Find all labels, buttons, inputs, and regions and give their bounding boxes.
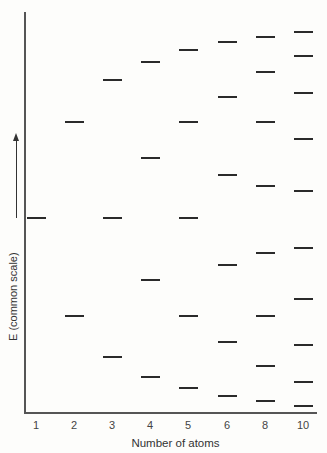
x-tick-label: 1 bbox=[26, 419, 46, 431]
energy-level-10-3 bbox=[294, 92, 313, 94]
energy-level-4-2 bbox=[141, 157, 160, 159]
energy-level-4-1 bbox=[141, 61, 160, 63]
energy-level-10-5 bbox=[294, 190, 313, 192]
y-axis-label: E (common scale) bbox=[7, 211, 19, 341]
energy-level-10-7 bbox=[294, 298, 313, 300]
energy-level-5-5 bbox=[179, 387, 198, 389]
energy-level-10-1 bbox=[294, 31, 313, 33]
energy-level-6-6 bbox=[218, 395, 237, 397]
energy-level-8-4 bbox=[256, 185, 275, 187]
energy-level-10-9 bbox=[294, 381, 313, 383]
energy-level-8-1 bbox=[256, 36, 275, 38]
energy-level-3-2 bbox=[103, 217, 122, 219]
energy-level-5-4 bbox=[179, 315, 198, 317]
energy-level-8-5 bbox=[256, 252, 275, 254]
energy-level-6-2 bbox=[218, 96, 237, 98]
energy-level-5-2 bbox=[179, 121, 198, 123]
x-tick-label: 5 bbox=[178, 419, 198, 431]
energy-level-8-7 bbox=[256, 365, 275, 367]
energy-level-10-4 bbox=[294, 138, 313, 140]
energy-level-2-1 bbox=[65, 121, 84, 123]
energy-level-3-1 bbox=[103, 79, 122, 81]
energy-level-6-3 bbox=[218, 174, 237, 176]
y-axis-line bbox=[24, 12, 26, 413]
x-tick-label: 4 bbox=[140, 419, 160, 431]
energy-level-6-5 bbox=[218, 341, 237, 343]
energy-level-4-4 bbox=[141, 376, 160, 378]
x-tick-label: 2 bbox=[64, 419, 84, 431]
energy-level-1-1 bbox=[27, 217, 46, 219]
energy-level-10-6 bbox=[294, 247, 313, 249]
energy-level-5-3 bbox=[179, 217, 198, 219]
energy-level-3-3 bbox=[103, 356, 122, 358]
energy-level-6-1 bbox=[218, 41, 237, 43]
x-axis-line bbox=[24, 412, 317, 414]
x-tick-label: 6 bbox=[217, 419, 237, 431]
energy-level-10-2 bbox=[294, 55, 313, 57]
energy-level-2-2 bbox=[65, 315, 84, 317]
y-arrow-shaft bbox=[16, 140, 17, 218]
x-axis-label: Number of atoms bbox=[0, 437, 327, 449]
x-tick-label: 8 bbox=[255, 419, 275, 431]
energy-level-10-8 bbox=[294, 344, 313, 346]
energy-level-5-1 bbox=[179, 49, 198, 51]
x-tick-label: 3 bbox=[102, 419, 122, 431]
energy-level-8-8 bbox=[256, 400, 275, 402]
energy-level-8-6 bbox=[256, 315, 275, 317]
energy-level-8-2 bbox=[256, 71, 275, 73]
energy-level-6-4 bbox=[218, 264, 237, 266]
energy-level-10-10 bbox=[294, 405, 313, 407]
energy-level-8-3 bbox=[256, 121, 275, 123]
x-tick-label: 10 bbox=[293, 419, 313, 431]
up-arrow-icon bbox=[13, 133, 19, 141]
energy-level-4-3 bbox=[141, 279, 160, 281]
